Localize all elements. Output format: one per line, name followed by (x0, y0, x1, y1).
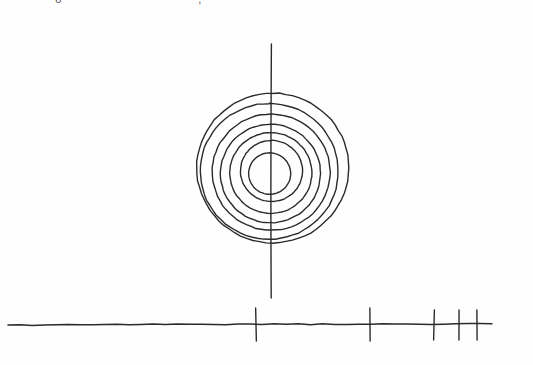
axis-tick-1 (256, 308, 257, 341)
horizontal-axis-line (8, 323, 492, 325)
concentric-circles-diagram (0, 0, 533, 365)
ring-7 (249, 153, 291, 194)
axis-tick-3 (434, 310, 435, 340)
horizontal-axis-group (8, 323, 492, 325)
vertical-axis-line (271, 44, 272, 298)
vertical-axis-group (271, 44, 272, 298)
ring-1 (197, 93, 349, 243)
concentric-rings-group (197, 93, 349, 243)
figure-canvas: o , (0, 0, 533, 365)
